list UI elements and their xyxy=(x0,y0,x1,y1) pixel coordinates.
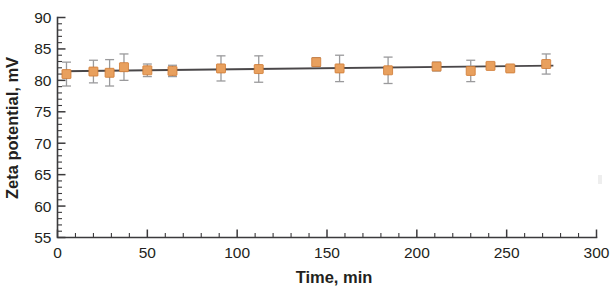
y-tick-label: 70 xyxy=(34,135,52,152)
y-tick-label: 75 xyxy=(34,103,51,120)
data-point-marker xyxy=(168,66,177,75)
y-tick-label: 85 xyxy=(34,40,51,57)
data-point-marker xyxy=(216,64,225,73)
trendline-segment xyxy=(63,66,553,72)
x-tick-label: 0 xyxy=(53,244,62,261)
axis-spines xyxy=(58,18,597,238)
x-axis-tick-labels: 050100150200250300 xyxy=(53,244,610,261)
data-point-marker xyxy=(62,70,71,79)
data-point-marker xyxy=(105,68,114,77)
x-tick-label: 250 xyxy=(494,244,520,261)
data-point-marker xyxy=(143,66,152,75)
y-axis-tick-labels: 5560657075808590 xyxy=(34,9,52,246)
x-tick-label: 300 xyxy=(584,244,610,261)
x-tick-label: 50 xyxy=(139,244,157,261)
data-point-marker xyxy=(506,64,515,73)
plot-axes xyxy=(58,18,597,238)
data-point-marker xyxy=(542,60,551,69)
y-tick-label: 90 xyxy=(34,9,52,26)
x-tick-label: 200 xyxy=(404,244,430,261)
y-axis-title: Zeta potential, mV xyxy=(3,57,21,199)
x-tick-label: 100 xyxy=(224,244,250,261)
x-axis-title: Time, min xyxy=(296,268,373,286)
y-tick-label: 80 xyxy=(34,72,52,89)
trendline xyxy=(63,66,553,72)
data-point-marker xyxy=(486,61,495,70)
scan-artifacts xyxy=(598,175,602,184)
data-point-marker xyxy=(89,67,98,76)
scan-speck xyxy=(598,175,602,184)
data-point-marker xyxy=(466,66,475,75)
y-tick-label: 60 xyxy=(34,198,52,215)
y-tick-label: 65 xyxy=(34,166,51,183)
chart-figure: 5560657075808590 050100150200250300 Time… xyxy=(0,0,612,288)
data-point-marker xyxy=(432,62,441,71)
zeta-potential-chart: 5560657075808590 050100150200250300 Time… xyxy=(0,0,612,288)
y-tick-label: 55 xyxy=(34,229,51,246)
data-point-marker xyxy=(312,58,321,67)
data-point-marker xyxy=(335,64,344,73)
x-tick-label: 150 xyxy=(314,244,340,261)
data-point-marker xyxy=(384,66,393,75)
data-point-marker xyxy=(119,63,128,72)
data-point-marker xyxy=(254,65,263,74)
